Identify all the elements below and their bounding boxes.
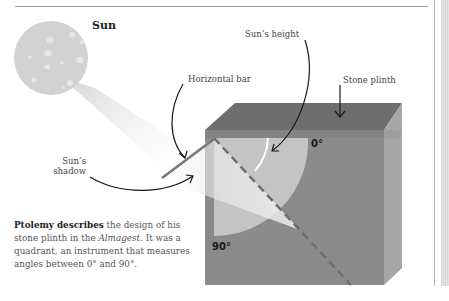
sun-label: Sun (92, 19, 116, 32)
caption: Ptolemy describes the design of his ston… (14, 219, 204, 271)
caption-lead: Ptolemy describes (14, 220, 104, 230)
label-stone-plinth: Stone plinth (343, 76, 396, 86)
caption-book-title: Almagest (98, 233, 140, 243)
sun-icon (14, 21, 88, 95)
label-sun-shadow-2: shadow (52, 167, 86, 177)
plinth-top (205, 103, 402, 130)
label-sun-height: Sun’s height (245, 30, 299, 40)
sun-beam (62, 78, 190, 165)
diagram-page: Sun Sun’s height Horizontal bar Stone pl… (0, 0, 449, 301)
angle-label-90: 90° (212, 241, 231, 252)
angle-label-0: 0° (311, 138, 323, 149)
label-horizontal-bar: Horizontal bar (188, 75, 251, 85)
